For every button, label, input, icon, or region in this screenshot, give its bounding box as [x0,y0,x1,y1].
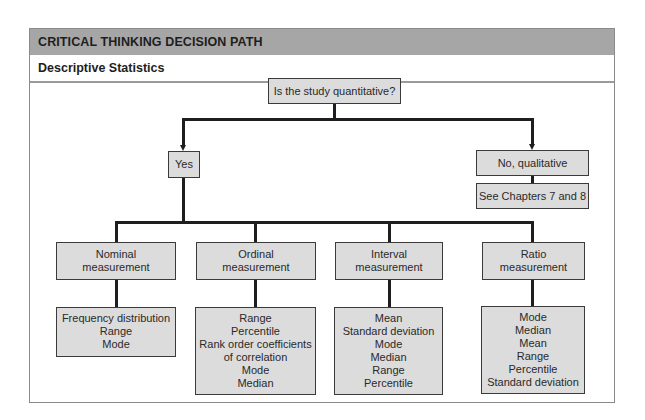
yes-box: Yes [168,151,200,178]
header-band: CRITICAL THINKING DECISION PATH [30,29,614,55]
stat-item: Mean [519,337,547,350]
nominal-measurement-box: Nominal measurement [56,242,176,280]
ratio-measurement-box: Ratio measurement [482,242,585,280]
stat-item: of correlation [224,351,288,364]
connector-nominal-drop [115,221,118,243]
connector-ratio-drop [531,221,534,243]
stat-item: Frequency distribution [62,312,170,325]
nominal-statistics-box: Frequency distribution Range Mode [56,307,176,357]
stat-item: Mode [102,338,130,351]
connector-interval-drop [388,221,391,243]
stat-item: Percentile [364,377,413,390]
connector-top-horizontal [182,118,534,121]
interval-label-sub: measurement [355,261,422,274]
nominal-label-sub: measurement [82,261,149,274]
connector-ordinal-drop [254,221,257,243]
ordinal-statistics-box: Range Percentile Rank order coefficients… [195,307,316,395]
stat-item: Percentile [231,325,280,338]
stat-item: Mean [375,312,403,325]
panel-title: CRITICAL THINKING DECISION PATH [38,35,263,49]
no-qualitative-label: No, qualitative [498,157,568,170]
stat-item: Range [239,312,271,325]
interval-measurement-box: Interval measurement [335,242,443,280]
connector-yes-stem [182,178,185,223]
stat-item: Range [372,364,404,377]
root-question-box: Is the study quantitative? [268,78,401,104]
stat-item: Range [517,350,549,363]
stat-item: Percentile [509,363,558,376]
interval-label: Interval [371,248,407,261]
see-chapters-box: See Chapters 7 and 8 [476,183,589,209]
nominal-label: Nominal [96,248,136,261]
ratio-label-sub: measurement [500,261,567,274]
stat-item: Mode [242,364,270,377]
see-chapters-label: See Chapters 7 and 8 [479,190,586,203]
stat-item: Median [237,377,273,390]
connector-interval-detail [388,280,391,308]
connector-yes-drop [182,118,185,146]
yes-label: Yes [175,158,193,171]
stat-item: Median [515,324,551,337]
connector-ordinal-detail [254,280,257,308]
root-question-label: Is the study quantitative? [274,85,396,98]
stat-item: Standard deviation [487,376,579,389]
stat-item: Median [370,351,406,364]
stat-item: Range [100,325,132,338]
ordinal-label-sub: measurement [222,261,289,274]
stat-item: Mode [519,311,547,324]
stat-item: Mode [375,338,403,351]
connector-ratio-detail [531,280,534,307]
ratio-label: Ratio [521,248,547,261]
connector-nominal-detail [115,280,118,308]
interval-statistics-box: Mean Standard deviation Mode Median Rang… [334,307,443,395]
panel-subtitle: Descriptive Statistics [38,61,164,75]
ordinal-measurement-box: Ordinal measurement [196,242,316,280]
connector-no-drop [531,118,534,145]
ordinal-label: Ordinal [238,248,273,261]
no-qualitative-box: No, qualitative [476,150,589,176]
ratio-statistics-box: Mode Median Mean Range Percentile Standa… [481,306,585,394]
stat-item: Standard deviation [343,325,435,338]
stat-item: Rank order coefficients [199,338,311,351]
connector-lower-horizontal [115,221,534,224]
